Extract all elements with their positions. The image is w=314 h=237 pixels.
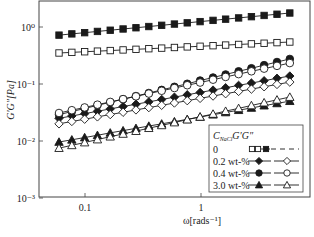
x-tick-label: 1 [199,202,204,213]
open-square-marker [210,42,216,48]
open-circle-marker [171,84,179,92]
rheology-chart: 0.1110⁰10⁻¹10⁻²10⁻³ CNaClG′G″ 0 0.2 wt-%… [0,0,314,237]
y-axis-title: G′G″[Pa] [5,80,16,120]
legend-header: CNaClG′G″ [213,130,254,142]
y-tick-label: 10⁻² [17,136,35,147]
open-square-marker [107,47,113,53]
open-square-marker [146,46,152,52]
open-square-marker [94,48,100,54]
open-square-marker [274,39,280,45]
filled-circle-marker [256,170,262,176]
open-circle-marker [209,76,217,84]
open-circle-marker [222,73,230,81]
open-square-marker [81,49,87,55]
open-square-marker [249,146,254,151]
y-tick-label: 10⁻³ [17,193,35,204]
filled-square-marker [133,25,139,31]
open-square-marker [184,44,190,50]
open-square-marker [235,41,241,47]
open-circle-marker [145,90,153,98]
open-square-marker [197,43,203,49]
open-square-marker [120,47,126,53]
open-circle-marker [94,101,102,109]
open-square-marker [248,41,254,47]
legend: CNaClG′G″ 0 0.2 wt-% 0.4 wt-% 3.0 wt-% [209,125,303,192]
open-square-marker [133,46,139,52]
filled-square-marker [81,29,87,35]
y-tick-label: 10⁰ [21,22,35,33]
open-circle-marker [132,93,140,101]
open-circle-marker [284,170,290,176]
filled-square-marker [261,12,267,18]
x-axis-title: ω[rads⁻¹] [183,215,221,226]
filled-square-marker [287,10,293,16]
open-square-marker [69,49,75,55]
filled-square-marker [274,11,280,17]
filled-square-marker [235,15,241,21]
open-circle-marker [273,62,281,70]
open-circle-marker [106,98,114,106]
open-circle-marker [196,79,204,87]
open-circle-marker [119,95,127,103]
filled-square-marker [158,22,164,28]
legend-label-0: 0 [213,144,218,155]
filled-square-marker [210,17,216,23]
filled-square-marker [107,27,113,33]
open-circle-marker [235,70,243,78]
y-tick-label: 10⁻¹ [17,79,35,90]
open-square-marker [171,44,177,50]
filled-square-marker [94,28,100,34]
legend-label-0-4: 0.4 wt-% [213,168,250,179]
open-square-marker [287,39,293,45]
open-circle-marker [248,68,256,76]
open-circle-marker [55,109,63,117]
legend-label-3-0: 3.0 wt-% [213,180,250,191]
filled-square-marker [56,32,62,38]
open-square-marker [261,40,267,46]
open-circle-marker [68,106,76,114]
open-circle-marker [260,65,268,73]
filled-square-marker [263,146,268,151]
filled-square-marker [197,18,203,24]
filled-square-marker [171,21,177,27]
open-circle-marker [286,59,294,67]
filled-square-marker [146,23,152,29]
filled-square-marker [120,26,126,32]
open-square-marker [255,146,260,151]
legend-label-0-2: 0.2 wt-% [213,156,250,167]
open-circle-marker [183,81,191,89]
open-square-marker [222,42,228,48]
filled-square-marker [248,13,254,19]
open-circle-marker [158,87,166,95]
open-square-marker [158,45,164,51]
open-circle-marker [81,104,89,112]
open-square-marker [56,50,62,56]
filled-square-marker [69,31,75,37]
filled-square-marker [222,16,228,22]
filled-square-marker [184,20,190,26]
x-tick-label: 0.1 [79,202,92,213]
